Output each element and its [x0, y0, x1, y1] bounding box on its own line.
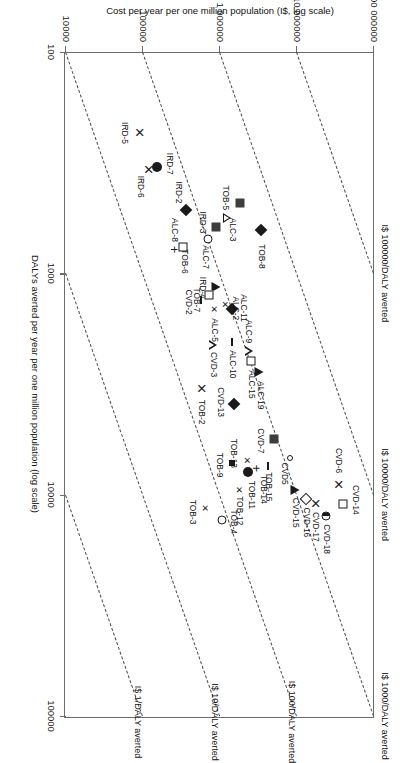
data-point-label: IRD-6: [136, 176, 146, 198]
data-point-label: CVD-6: [334, 448, 344, 473]
data-point-label: ALC-8: [170, 218, 180, 242]
y-tick-mark: [65, 46, 66, 52]
data-point-label: ALC-9: [244, 319, 254, 343]
data-point-marker: [291, 485, 300, 495]
y-tick-mark: [219, 46, 220, 52]
data-point-marker: [212, 223, 221, 232]
data-point-label: ALC-11: [239, 294, 249, 322]
data-point-label: CVD-17: [311, 512, 321, 542]
data-point-label: CVD5: [280, 462, 290, 484]
data-point-marker: [256, 226, 265, 235]
data-point-marker: [339, 499, 348, 508]
data-point-marker: [246, 357, 255, 366]
data-point-marker: [203, 235, 212, 244]
y-tick-label: 100 000000: [369, 0, 380, 42]
data-point-marker: [235, 198, 244, 207]
data-point-label: ALC-15: [247, 370, 257, 398]
data-point-marker: [269, 434, 278, 443]
iso-cost-line-label: I$ 10000/DALY averted: [380, 448, 390, 541]
data-point-label: CVD-2: [184, 289, 194, 314]
iso-cost-line-label: I$ 100/DALY averted: [287, 681, 297, 763]
data-point-label: TOB-5: [221, 186, 231, 211]
data-point-marker: [243, 467, 253, 477]
data-point-marker: [231, 338, 233, 346]
y-axis-title: Cost per year per one million population…: [106, 5, 334, 16]
x-tick-mark: [60, 52, 66, 53]
data-point-label: ALC-10: [228, 350, 238, 378]
iso-cost-line-label: I$ 100000/DALY averted: [380, 224, 390, 322]
data-point-label: TOB-9: [215, 453, 225, 478]
data-point-marker: [287, 455, 293, 461]
data-point-label: IRD-7: [165, 153, 175, 175]
data-point-label: TOB-2: [197, 400, 207, 425]
data-point-label: CVD-15: [291, 498, 301, 528]
data-point-label: ALC-5: [210, 318, 220, 342]
data-point-label: CVD-18: [322, 524, 332, 554]
data-point-marker: [322, 512, 331, 521]
data-point-label: TOB-3: [188, 500, 198, 525]
x-tick-label: 100: [46, 44, 57, 60]
data-point-label: TOB-8: [257, 244, 267, 269]
data-point-marker: [245, 346, 253, 356]
data-point-label: IRD-2: [174, 182, 184, 204]
y-tick-mark: [373, 46, 374, 52]
data-point-label: TOB-11: [247, 481, 257, 510]
x-tick-mark: [60, 716, 66, 717]
y-tick-mark: [142, 46, 143, 52]
plot-frame: [64, 52, 374, 718]
data-point-label: CVD-14: [351, 485, 361, 515]
data-point-label: ALC-7: [201, 245, 211, 269]
x-tick-mark: [60, 495, 66, 496]
data-point-label: CVD-3: [209, 352, 219, 377]
data-point-marker: [205, 290, 214, 299]
x-tick-label: 100000: [46, 700, 57, 732]
data-point-label: CVD-13: [216, 387, 226, 417]
iso-cost-line-label: I$ 10/DALY averted: [210, 683, 220, 761]
x-tick-mark: [60, 273, 66, 274]
data-point-label: CVD-16: [302, 507, 312, 537]
data-point-label: TOB-14: [259, 475, 269, 504]
x-tick-label: 10000: [46, 481, 57, 507]
x-tick-label: 1000: [46, 263, 57, 284]
data-point-marker: [200, 296, 202, 304]
iso-cost-line-label: I$ 1/DALY averted: [133, 686, 143, 759]
iso-cost-line-label: I$ 1000/DALY averted: [380, 672, 390, 760]
data-point-label: ALC-3: [228, 218, 238, 242]
data-point-marker: [267, 462, 269, 470]
data-point-label: ALC-2: [231, 296, 241, 320]
data-point-marker: [301, 495, 310, 504]
data-point-marker: [229, 400, 238, 409]
x-axis-title: DALYs averted per year per one million p…: [30, 255, 41, 513]
data-point-marker: [181, 206, 190, 215]
data-point-marker: [217, 515, 226, 524]
data-point-label: TOB-6: [180, 249, 190, 274]
data-point-label: IRD-5: [120, 122, 130, 144]
y-tick-label: 10000: [61, 16, 72, 42]
data-point-label: TOB-4: [229, 510, 239, 535]
data-point-label: IRD-3: [198, 211, 208, 233]
data-point-label: CVD-7: [256, 428, 266, 453]
data-point-marker: [229, 460, 235, 466]
data-point-label: ALC-19: [256, 381, 266, 409]
y-tick-mark: [296, 46, 297, 52]
